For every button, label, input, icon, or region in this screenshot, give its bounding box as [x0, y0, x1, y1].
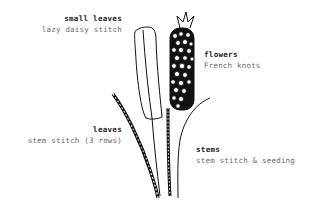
flowers-title: flowers [204, 49, 261, 60]
stems-stitch: stem stitch & seeding [196, 155, 295, 166]
small-leaf-lazy-daisy [135, 27, 162, 196]
label-stems: stems stem stitch & seeding [196, 144, 295, 166]
flowers-stitch: French knots [204, 60, 261, 71]
label-leaves: leaves stem stitch (3 rows) [28, 124, 122, 146]
small-leaves-stitch: lazy daisy stitch [42, 24, 122, 35]
leaves-stitch: stem stitch (3 rows) [28, 135, 122, 146]
label-small-leaves: small leaves lazy daisy stitch [42, 13, 122, 35]
label-flowers: flowers French knots [204, 49, 261, 71]
leaves-title: leaves [28, 124, 122, 135]
stems-title: stems [196, 144, 295, 155]
small-leaves-title: small leaves [42, 13, 122, 24]
flower-french-knots [168, 12, 194, 196]
